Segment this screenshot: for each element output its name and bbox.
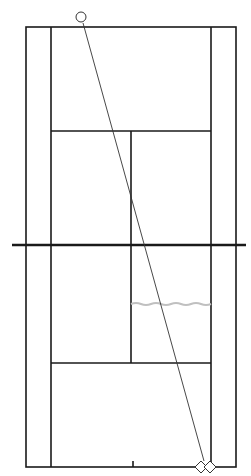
tennis-court-diagram <box>0 0 251 476</box>
shot-trajectory <box>83 23 204 461</box>
ball-start-icon <box>76 12 86 22</box>
bounce-wave <box>131 303 211 305</box>
player-marker-icon <box>204 461 216 473</box>
court-lines <box>26 27 236 467</box>
